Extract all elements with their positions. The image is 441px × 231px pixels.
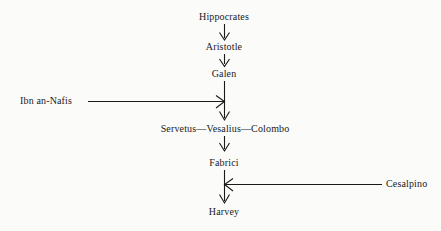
node-galen: Galen [212,68,237,79]
node-harvey: Harvey [209,206,239,217]
connector-servetus-to-fabrici [220,136,230,151]
connector-galen-to-servetus [220,81,230,120]
node-cesalpino: Cesalpino [386,178,427,189]
node-fabrici: Fabrici [209,157,238,168]
node-aristotle: Aristotle [206,41,242,52]
node-ibn-an-nafis: Ibn an-Nafis [20,95,72,106]
connector-cesalpino-to-chain [225,179,383,192]
node-servetus-vesalius-colombo: Servetus—Vesalius—Colombo [161,123,290,134]
flow-connectors [0,0,441,231]
node-hippocrates: Hippocrates [199,11,249,22]
connector-ibn-an-nafis-to-chain [88,96,225,109]
connector-aristotle-to-galen [220,54,230,67]
connector-hippocrates-to-aristotle [220,24,230,40]
lineage-diagram: Hippocrates Aristotle Galen Servetus—Ves… [0,0,441,231]
